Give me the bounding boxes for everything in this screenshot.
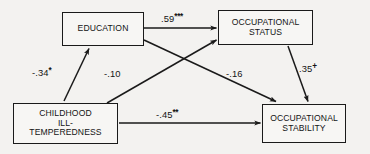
node-childhood-ill-temperedness[interactable]: CHILDHOOD ILL- TEMPEREDNESS [13,103,118,144]
significance-marker: *** [174,12,182,21]
node-occupational-status-label: OCCUPATIONAL STATUS [232,18,300,37]
path-label-education-to-occupational-stability: -.16 [226,67,243,79]
coefficient-value: -.16 [226,68,243,79]
node-education-label: EDUCATION [78,24,129,34]
coefficient-value: .35 [299,63,312,74]
node-occupational-stability-label: OCCUPATIONAL STABILITY [270,114,338,133]
node-childhood-ill-temperedness-label: CHILDHOOD ILL- TEMPEREDNESS [29,109,101,138]
arrow-childhood-to-education [64,49,89,102]
node-occupational-status[interactable]: OCCUPATIONAL STATUS [218,10,313,45]
path-label-childhood-to-education: -.34* [32,66,51,78]
node-occupational-stability[interactable]: OCCUPATIONAL STABILITY [262,104,346,143]
path-label-occupational-status-to-stability: .35+ [299,62,317,74]
path-label-childhood-to-occupational-status: -.10 [104,67,121,79]
significance-marker: * [49,66,52,75]
coefficient-value: -.10 [104,68,121,79]
coefficient-value: .59 [161,13,174,24]
path-label-childhood-to-occupational-stability: -.45** [156,108,178,120]
path-label-education-to-occupational-status: .59*** [161,12,183,24]
node-education[interactable]: EDUCATION [62,12,144,46]
significance-marker: + [312,62,316,71]
path-diagram: EDUCATION OCCUPATIONAL STATUS CHILDHOOD … [0,0,370,154]
coefficient-value: -.45 [156,109,173,120]
coefficient-value: -.34 [32,67,49,78]
significance-marker: ** [173,108,179,117]
arrow-childhood-to-occupational-status [107,40,217,103]
